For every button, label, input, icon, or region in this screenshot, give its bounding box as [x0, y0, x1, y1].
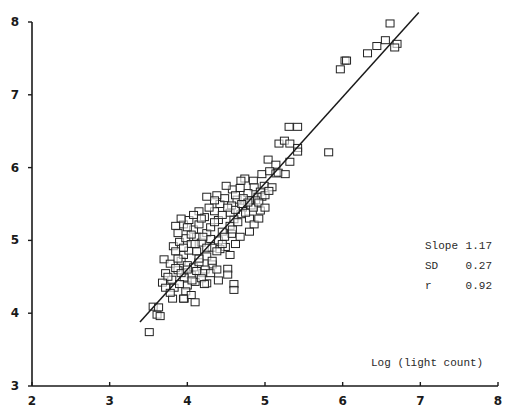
data-point-square	[191, 299, 199, 306]
data-point-square	[231, 192, 239, 199]
data-point-square	[391, 44, 399, 51]
data-point-square	[208, 257, 216, 264]
y-tick-label: 5	[11, 233, 19, 247]
data-point-square	[197, 215, 205, 222]
data-point-square	[174, 230, 182, 237]
x-tick-label: 3	[105, 394, 113, 408]
data-point-square	[188, 277, 196, 284]
x-tick-label: 2	[28, 394, 36, 408]
x-axis-label: Log (light count)	[371, 357, 483, 369]
data-point-square	[224, 271, 232, 278]
x-tick-label: 4	[183, 394, 191, 408]
data-point-square	[343, 57, 351, 64]
data-point-square	[211, 219, 219, 226]
data-point-square	[234, 219, 242, 226]
data-point-square	[179, 295, 187, 302]
data-point-square	[218, 241, 226, 248]
data-point-square	[285, 123, 293, 130]
data-point-square	[200, 281, 208, 288]
data-point-square	[336, 66, 344, 73]
data-point-square	[187, 231, 195, 238]
data-point-square	[218, 211, 226, 218]
data-point-square	[191, 241, 199, 248]
data-point-square	[214, 277, 222, 284]
data-point-square	[245, 228, 253, 235]
data-point-square	[177, 215, 185, 222]
x-tick-label: 8	[494, 394, 502, 408]
data-point-square	[226, 251, 234, 258]
data-point-square	[224, 204, 232, 211]
stat-label: SD	[425, 260, 439, 272]
scatter-chart: 2345678 345678 Slope1.17SD0.27r0.92 Log …	[0, 0, 509, 420]
data-point-square	[231, 241, 239, 248]
stat-label: r	[425, 280, 432, 292]
data-point-square	[325, 149, 333, 156]
data-point-square	[193, 248, 201, 255]
data-point-square	[205, 204, 213, 211]
data-point-square	[221, 195, 229, 202]
data-point-square	[230, 286, 238, 293]
data-point-square	[258, 171, 266, 178]
regression-line	[140, 13, 419, 322]
x-tick-label: 7	[416, 394, 424, 408]
data-point-square	[221, 233, 229, 240]
y-tick-label: 3	[11, 379, 19, 393]
data-point-square	[237, 177, 245, 184]
data-point-square	[179, 244, 187, 251]
stats-annotation: Slope1.17SD0.27r0.92	[425, 240, 492, 292]
data-point-square	[187, 292, 195, 299]
data-point-square	[213, 266, 221, 273]
data-point-square	[236, 233, 244, 240]
data-point-square	[255, 215, 263, 222]
data-point-square	[156, 313, 164, 320]
data-point-square	[174, 255, 182, 262]
y-tick-label: 4	[11, 306, 19, 320]
data-point-square	[213, 248, 221, 255]
data-point-square	[381, 37, 389, 44]
stat-value: 0.92	[466, 280, 492, 292]
stat-label: Slope	[425, 240, 458, 252]
data-point-square	[190, 211, 198, 218]
data-point-square	[172, 248, 180, 255]
data-point-square	[249, 177, 257, 184]
data-point-square	[211, 197, 219, 204]
data-point-square	[364, 50, 372, 57]
data-point-square	[265, 187, 273, 194]
y-tick-label: 8	[11, 15, 19, 29]
data-point-square	[228, 226, 236, 233]
data-point-square	[386, 20, 394, 27]
data-point-square	[373, 43, 381, 50]
data-point-square	[199, 233, 207, 240]
x-tick-label: 5	[261, 394, 269, 408]
data-point-square	[286, 140, 294, 147]
data-point-square	[172, 222, 180, 229]
y-ticks: 345678	[11, 15, 32, 393]
data-point-square	[294, 123, 302, 130]
data-point-square	[236, 184, 244, 191]
data-point-square	[203, 193, 211, 200]
data-point-square	[183, 224, 191, 231]
stat-value: 1.17	[466, 240, 492, 252]
data-point-square	[261, 204, 269, 211]
stat-value: 0.27	[466, 260, 492, 272]
y-tick-label: 7	[11, 88, 19, 102]
data-point-square	[264, 156, 272, 163]
data-point-square	[281, 171, 289, 178]
data-point-square	[222, 182, 230, 189]
y-tick-label: 6	[11, 161, 19, 175]
data-points	[145, 20, 401, 336]
x-tick-label: 6	[338, 394, 346, 408]
data-point-square	[242, 209, 250, 216]
data-point-square	[145, 329, 153, 336]
data-point-square	[193, 267, 201, 274]
